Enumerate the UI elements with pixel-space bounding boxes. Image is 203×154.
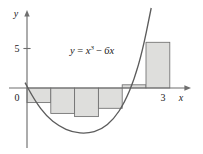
equation-exponent: 3 [89,44,94,52]
riemann-rectangle [146,42,170,88]
riemann-sum-figure: y x 0 5 3 y=x3−6x [0,0,203,154]
equation-minus: − [96,45,102,56]
x-axis-arrow-icon [184,85,191,90]
y-tick-label-5: 5 [15,43,20,54]
equation-lhs: y [69,45,75,56]
origin-label: 0 [15,92,20,103]
equation-equals: = [77,45,83,56]
y-axis-label: y [13,8,19,19]
riemann-rectangle [27,88,51,103]
x-tick-label-3: 3 [161,92,166,103]
equation-annotation: y=x3−6x [69,44,115,56]
y-axis-arrow-icon [24,10,29,17]
plot-canvas: y x 0 5 3 y=x3−6x [0,0,203,154]
equation-term: 6x [104,45,114,56]
riemann-rectangle [75,88,99,117]
x-axis-label: x [178,92,184,103]
riemann-rectangle [51,88,75,113]
riemann-rectangle [98,88,122,108]
